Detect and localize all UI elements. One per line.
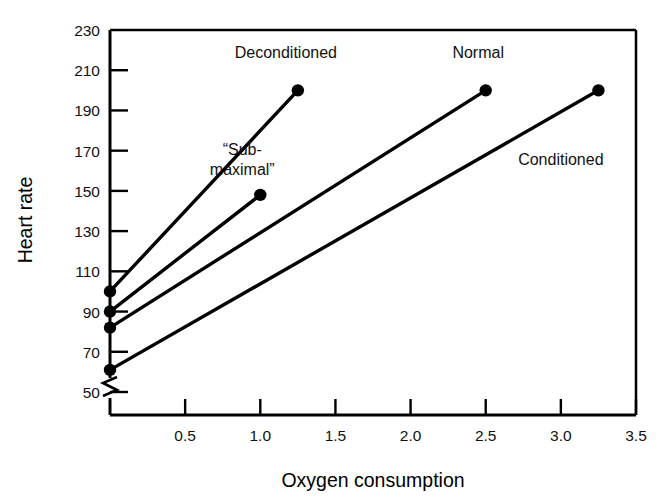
y-axis-title: Heart rate (14, 177, 36, 264)
x-tick-label: 2.0 (400, 427, 422, 444)
y-tick-label: 110 (75, 263, 100, 280)
chart-figure: 507090110130150170190210230 0.51.01.52.0… (0, 0, 658, 501)
y-tick-label: 70 (83, 344, 101, 361)
data-point-marker (104, 285, 116, 297)
y-tick-label: 150 (74, 183, 100, 200)
data-point-marker (480, 84, 492, 96)
y-tick-label: 50 (83, 384, 101, 401)
series-annotation-label: Normal (452, 44, 504, 61)
x-tick-label: 1.5 (325, 427, 347, 444)
x-tick-label: 3.5 (625, 427, 647, 444)
y-tick-label: 230 (74, 22, 100, 39)
series-annotation-label: maximal” (210, 161, 275, 178)
x-tick-label: 2.5 (475, 427, 497, 444)
data-point-marker (104, 364, 116, 376)
y-tick-label: 170 (74, 143, 100, 160)
data-point-marker (592, 84, 604, 96)
y-tick-label: 90 (83, 304, 101, 321)
data-point-marker (292, 84, 304, 96)
x-tick-label: 1.0 (250, 427, 272, 444)
y-tick-label: 130 (74, 223, 100, 240)
data-point-marker (254, 189, 266, 201)
heart-rate-vs-oxygen-consumption-chart: 507090110130150170190210230 0.51.01.52.0… (0, 0, 658, 501)
x-tick-label: 3.0 (550, 427, 572, 444)
y-tick-label: 190 (74, 102, 100, 119)
data-point-marker (104, 321, 116, 333)
series-annotation-label: Conditioned (518, 151, 603, 168)
series-annotation-label: Deconditioned (235, 44, 337, 61)
data-point-marker (104, 305, 116, 317)
x-tick-label: 0.5 (174, 427, 196, 444)
x-axis-title: Oxygen consumption (281, 469, 464, 491)
y-tick-label: 210 (74, 62, 100, 79)
series-annotation-label: “Sub- (223, 141, 262, 158)
